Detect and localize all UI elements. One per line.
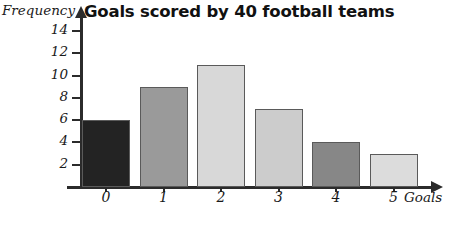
y-tick-mark xyxy=(72,141,80,143)
bar xyxy=(255,109,303,187)
x-tick-label: 0 xyxy=(86,190,126,204)
x-tick-label: 5 xyxy=(374,190,414,204)
x-tick-label: 1 xyxy=(144,190,184,204)
bar xyxy=(370,154,418,187)
y-tick-mark xyxy=(72,30,80,32)
bar xyxy=(197,65,245,187)
y-tick-label: 14 xyxy=(40,23,68,37)
y-tick-label: 2 xyxy=(40,157,68,171)
y-tick-label: 8 xyxy=(40,90,68,104)
y-tick-label: 4 xyxy=(40,134,68,148)
bar xyxy=(140,87,188,187)
x-axis-arrow-icon xyxy=(431,181,443,193)
y-tick-mark xyxy=(72,97,80,99)
x-tick-label: 4 xyxy=(316,190,356,204)
bar xyxy=(82,120,130,187)
y-axis-arrow-icon xyxy=(75,6,87,18)
x-tick-label: 3 xyxy=(259,190,299,204)
y-tick-mark xyxy=(72,164,80,166)
y-tick-label: 6 xyxy=(40,112,68,126)
y-tick-label: 12 xyxy=(40,45,68,59)
y-tick-mark xyxy=(72,52,80,54)
plot-area: 2468101214 012345 xyxy=(0,0,462,225)
x-tick-label: 2 xyxy=(201,190,241,204)
y-tick-mark xyxy=(72,75,80,77)
y-tick-mark xyxy=(72,119,80,121)
bar xyxy=(312,142,360,187)
y-tick-label: 10 xyxy=(40,68,68,82)
bar-chart-figure: Goals scored by 40 football teams Freque… xyxy=(0,0,462,225)
